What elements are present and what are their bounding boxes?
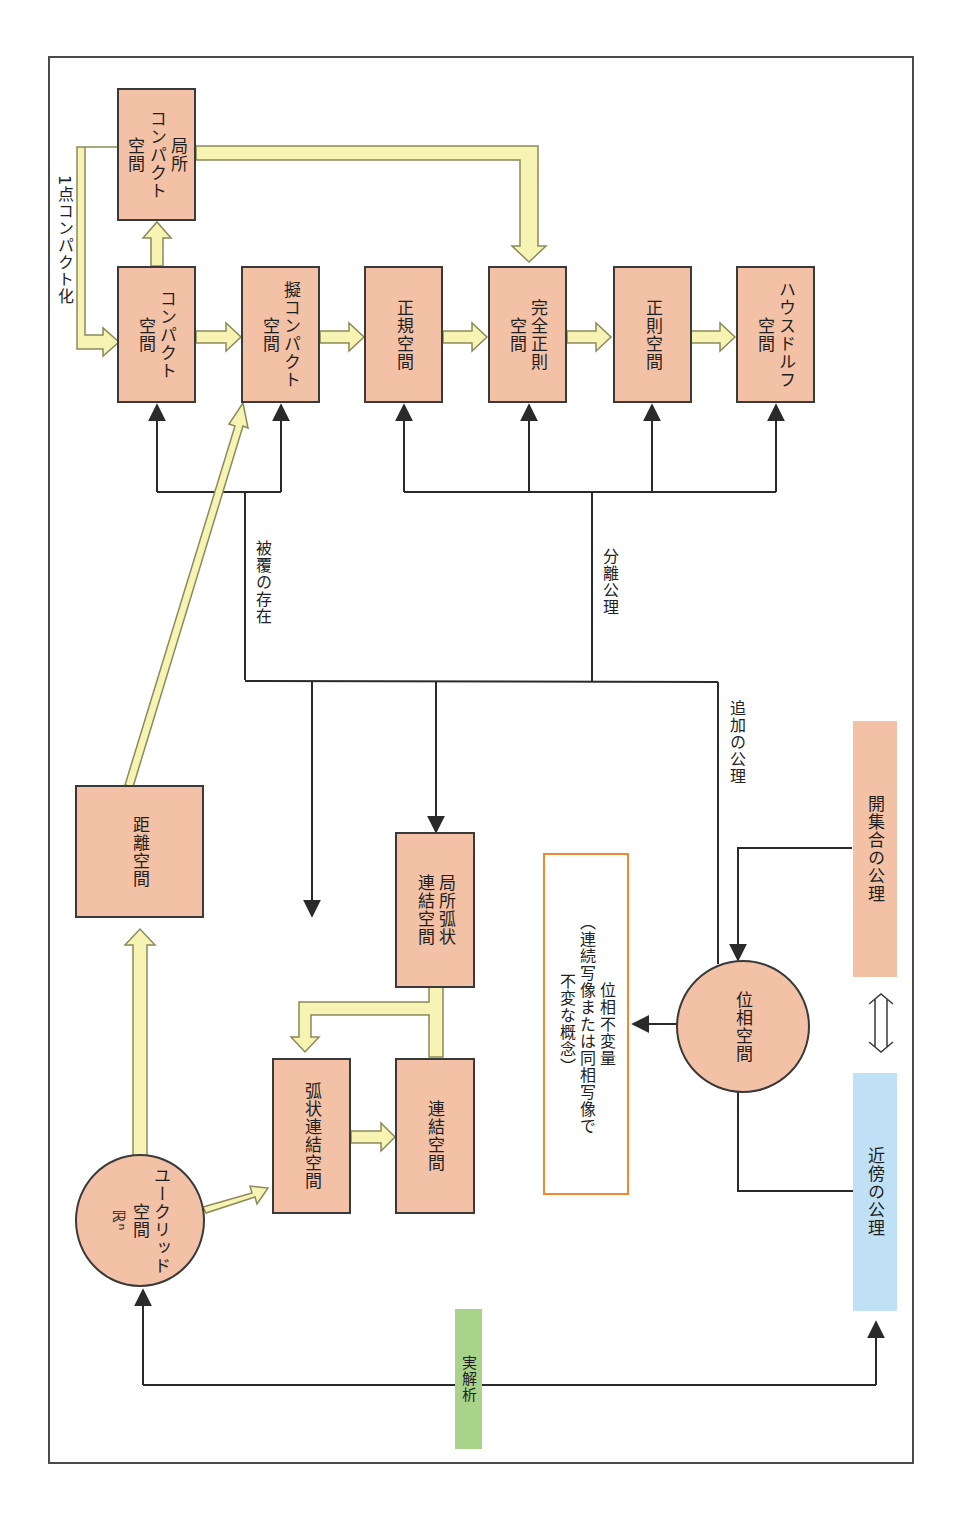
label-separation-axiom: 分離公理: [597, 548, 621, 616]
label-one-point-compactification: 1点コンパクト化: [52, 175, 76, 305]
node-compact-space: コンパクト 空間: [117, 266, 196, 403]
real-analysis-box: 実解析: [455, 1309, 482, 1449]
node-local-arc-connected-space: 局所弧状 連結空間: [395, 832, 475, 988]
node-topological-space: 位相空間: [676, 960, 810, 1093]
node-connected-space: 連結空間: [395, 1058, 475, 1214]
node-arc-connected-space: 弧状連結空間: [272, 1058, 351, 1214]
topological-invariant-box: 位相不変量 （連続写像または同相写像で 不変な概念）: [543, 853, 629, 1195]
node-normal-space: 正規空間: [364, 266, 443, 403]
node-hausdorff-space: ハウスドルフ 空間: [736, 266, 815, 403]
node-completely-regular-space: 完全正則 空間: [488, 266, 567, 403]
label-existence-of-cover: 被覆の存在: [250, 540, 274, 625]
open-set-axiom-box: 開集合の公理: [853, 721, 897, 977]
neighborhood-axiom-box: 近傍の公理: [853, 1073, 897, 1311]
label-additional-axiom: 追加の公理: [724, 700, 748, 785]
node-euclidean-space: ユークリッド 空間 ℝⁿ: [75, 1154, 205, 1287]
node-quasi-compact-space: 擬コンパクト 空間: [241, 266, 320, 403]
node-local-compact-space: 局所 コンパクト 空間: [117, 88, 196, 221]
node-regular-space: 正則空間: [613, 266, 692, 403]
node-metric-space: 距離空間: [75, 785, 204, 918]
